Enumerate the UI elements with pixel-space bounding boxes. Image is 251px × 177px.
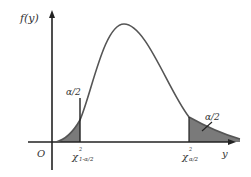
left-tail-region [56, 120, 80, 142]
density-curve [56, 24, 240, 142]
left-tail-label: α/2 [66, 87, 81, 97]
left-critical-sup: 2 [78, 146, 82, 152]
right-critical-sup: 2 [188, 146, 192, 152]
left-critical-sub: 1-α/2 [79, 156, 94, 162]
y-axis-label: f(y) [19, 12, 39, 25]
left-critical-symbol: χ [71, 151, 79, 162]
right-critical-sub: α/2 [189, 156, 199, 162]
right-critical-symbol: χ [181, 151, 189, 162]
y-axis-arrow-icon [49, 10, 55, 18]
chi-square-diagram: f(y) y O α/2 α/2 χ 2 1-α/2 χ 2 α/2 [0, 0, 251, 177]
x-axis-label: y [221, 148, 228, 159]
origin-label: O [37, 148, 45, 159]
right-tail-label: α/2 [205, 112, 220, 122]
